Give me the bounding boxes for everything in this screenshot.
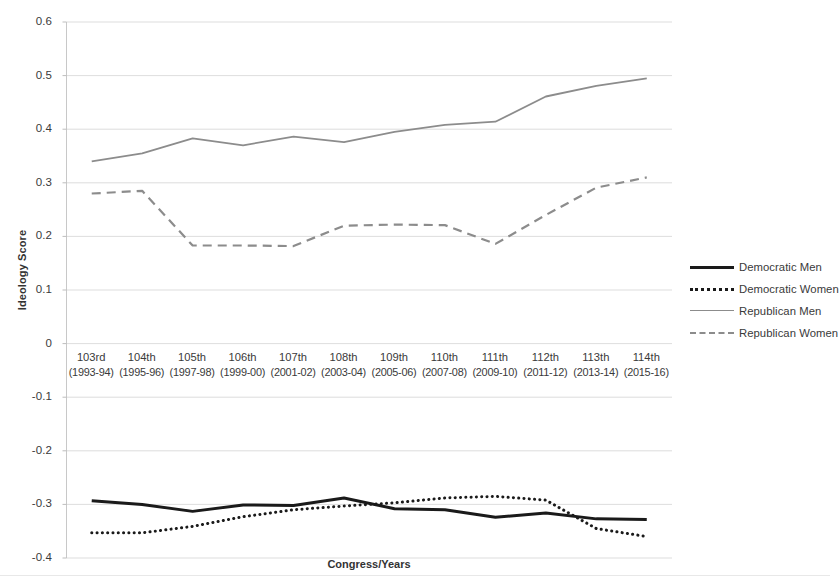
- x-axis-tick-label: 111th(2009-10): [467, 350, 523, 380]
- series-line-republican-women: [92, 177, 647, 246]
- x-tick-years: (2003-04): [316, 365, 372, 380]
- x-tick-congress: 103rd: [63, 350, 119, 365]
- legend-item-democratic-women: Democratic Women: [690, 278, 828, 300]
- x-axis-tick-label: 103rd(1993-94): [63, 350, 119, 380]
- page-edge-divider: [0, 575, 830, 576]
- x-tick-years: (1997-98): [164, 365, 220, 380]
- legend-label: Republican Women: [739, 327, 838, 339]
- x-tick-years: (1995-96): [114, 365, 170, 380]
- x-tick-congress: 113th: [568, 350, 624, 365]
- x-tick-years: (2013-14): [568, 365, 624, 380]
- x-tick-years: (2007-08): [416, 365, 472, 380]
- legend-item-republican-women: Republican Women: [690, 322, 828, 344]
- legend-swatch-solid-thick-icon: [690, 261, 734, 273]
- x-axis-tick-label: 114th(2015-16): [618, 350, 674, 380]
- x-tick-congress: 110th: [416, 350, 472, 365]
- legend-item-republican-men: Republican Men: [690, 300, 828, 322]
- x-tick-years: (2011-12): [517, 365, 573, 380]
- x-tick-congress: 106th: [215, 350, 271, 365]
- x-tick-congress: 111th: [467, 350, 523, 365]
- x-axis-tick-label: 113th(2013-14): [568, 350, 624, 380]
- x-tick-congress: 114th: [618, 350, 674, 365]
- axis-lines: [63, 22, 67, 558]
- x-tick-congress: 104th: [114, 350, 170, 365]
- x-tick-congress: 109th: [366, 350, 422, 365]
- x-tick-years: (1993-94): [63, 365, 119, 380]
- x-axis-tick-label: 109th(2005-06): [366, 350, 422, 380]
- x-axis-title: Congress/Years: [66, 558, 672, 570]
- gridlines: [67, 22, 673, 558]
- legend-item-democratic-men: Democratic Men: [690, 256, 828, 278]
- x-axis-tick-label: 108th(2003-04): [316, 350, 372, 380]
- legend-swatch-solid-thin-icon: [690, 305, 734, 317]
- x-tick-years: (2005-06): [366, 365, 422, 380]
- x-axis-tick-label: 104th(1995-96): [114, 350, 170, 380]
- x-tick-congress: 107th: [265, 350, 321, 365]
- x-tick-years: (2001-02): [265, 365, 321, 380]
- series-line-republican-men: [92, 78, 647, 161]
- x-tick-years: (1999-00): [215, 365, 271, 380]
- x-tick-years: (2015-16): [618, 365, 674, 380]
- x-axis-tick-label: 105th(1997-98): [164, 350, 220, 380]
- series-lines: [92, 78, 647, 536]
- x-axis-tick-label: 112th(2011-12): [517, 350, 573, 380]
- x-tick-congress: 105th: [164, 350, 220, 365]
- x-axis-tick-label: 107th(2001-02): [265, 350, 321, 380]
- legend-label: Democratic Men: [739, 261, 822, 273]
- x-axis-tick-labels: 103rd(1993-94)104th(1995-96)105th(1997-9…: [66, 350, 672, 388]
- x-axis-tick-label: 106th(1999-00): [215, 350, 271, 380]
- legend-label: Republican Men: [739, 305, 821, 317]
- x-axis-tick-label: 110th(2007-08): [416, 350, 472, 380]
- x-tick-congress: 112th: [517, 350, 573, 365]
- legend-swatch-dashed-icon: [690, 327, 734, 339]
- legend-label: Democratic Women: [739, 283, 839, 295]
- chart-legend: Democratic Men Democratic Women Republic…: [690, 256, 828, 344]
- legend-swatch-dotted-icon: [690, 283, 734, 295]
- x-tick-years: (2009-10): [467, 365, 523, 380]
- x-tick-congress: 108th: [316, 350, 372, 365]
